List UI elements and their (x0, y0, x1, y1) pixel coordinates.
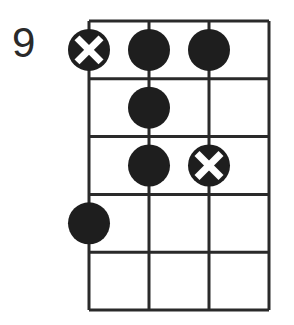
finger-dot (128, 29, 170, 71)
finger-dot (188, 29, 230, 71)
finger-dot (128, 145, 170, 187)
finger-dot (68, 202, 110, 244)
fretboard-grid (0, 0, 294, 325)
finger-dot (128, 87, 170, 129)
